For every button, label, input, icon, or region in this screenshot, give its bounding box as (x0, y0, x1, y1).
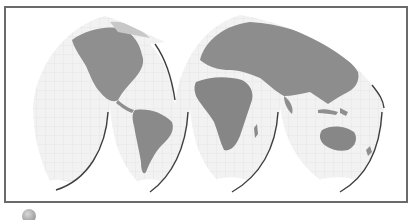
world-map (0, 0, 410, 220)
globe-icon (22, 209, 36, 220)
